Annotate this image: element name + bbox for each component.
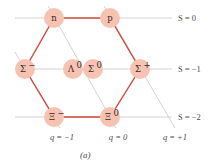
node-label: Σ (135, 64, 141, 74)
node-superscript: − (29, 60, 36, 70)
charge-label: q = 0 (109, 132, 128, 142)
node-xi-minus: Ξ− (44, 107, 65, 127)
node-label: Σ (20, 64, 26, 74)
node-superscript: 0 (114, 108, 119, 118)
node-p: p (100, 8, 120, 28)
caption: (a) (80, 150, 91, 160)
node-label: p (107, 13, 113, 23)
strangeness-labels: S = 0S = −1S = −2 (178, 13, 201, 122)
node-xi-0: Ξ0 (100, 107, 120, 127)
node-superscript: − (58, 108, 65, 118)
node-superscript: + (144, 60, 151, 70)
nodes: npΣ−Λ0Σ0Σ+Ξ−Ξ0 (15, 8, 151, 127)
strangeness-label: S = 0 (178, 13, 196, 23)
node-superscript: 0 (97, 60, 102, 70)
node-label: Λ (67, 64, 75, 74)
node-sigma-plus: Σ+ (130, 59, 151, 79)
node-label: Σ (88, 64, 94, 74)
node-n: n (44, 8, 64, 28)
charge-label: q = −1 (50, 132, 74, 142)
node-lambda-0: Λ0 (63, 59, 83, 79)
node-label: Ξ (49, 112, 55, 122)
strangeness-label: S = −2 (178, 112, 201, 122)
node-label: n (51, 13, 57, 23)
strangeness-label: S = −1 (178, 64, 201, 74)
charge-label: q = +1 (163, 132, 187, 142)
node-superscript: 0 (77, 60, 82, 70)
charge-labels: q = −1q = 0q = +1 (50, 132, 187, 142)
node-sigma-minus: Σ− (15, 59, 36, 79)
baryon-octet-diagram: npΣ−Λ0Σ0Σ+Ξ−Ξ0 S = 0S = −1S = −2 q = −1q… (0, 0, 218, 168)
node-sigma-0: Σ0 (83, 59, 103, 79)
node-label: Ξ (105, 112, 111, 122)
